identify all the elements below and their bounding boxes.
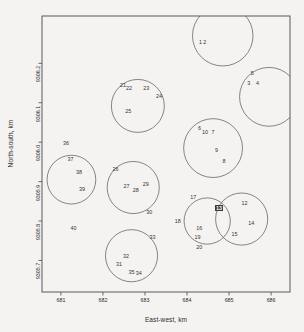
- cluster-36-39: [47, 155, 96, 204]
- scatter-plot-figure: North-south, km East-west, km 6816826836…: [0, 0, 304, 332]
- data-point-label-22: 22: [126, 85, 132, 91]
- data-point-label-23: 23: [143, 85, 149, 91]
- data-point-label-14: 14: [248, 220, 254, 226]
- data-point-label-9: 9: [215, 147, 218, 153]
- data-point-label-35: 35: [129, 269, 135, 275]
- data-point-label-6: 6: [198, 125, 201, 131]
- y-tick-label: 9306.1: [35, 103, 41, 125]
- data-point-label-12: 12: [242, 200, 248, 206]
- cluster-circles-group: [47, 5, 298, 281]
- data-point-label-15: 15: [232, 231, 238, 237]
- y-tick-label: 9306.0: [35, 142, 41, 164]
- y-tick-label: 9305.9: [35, 182, 41, 204]
- data-point-label-39: 39: [79, 186, 85, 192]
- data-point-label-8: 8: [223, 158, 226, 164]
- data-point-label-33: 33: [150, 234, 156, 240]
- data-point-label-34: 34: [136, 270, 142, 276]
- data-point-label-5: 5: [251, 70, 254, 76]
- data-point-label-13: 13: [215, 205, 223, 211]
- axis-ticks-group: [39, 63, 272, 295]
- data-point-label-2: 2: [203, 39, 206, 45]
- x-tick-label: 683: [130, 297, 160, 303]
- data-point-label-16: 16: [196, 225, 202, 231]
- data-point-label-10: 10: [202, 129, 208, 135]
- y-tick-label: 9305.8: [35, 221, 41, 243]
- data-point-label-7: 7: [212, 129, 215, 135]
- data-point-label-29: 29: [143, 181, 149, 187]
- data-point-label-31: 31: [116, 261, 122, 267]
- data-point-label-40: 40: [71, 225, 77, 231]
- y-tick-label: 9305.7: [35, 260, 41, 282]
- plot-frame: [42, 16, 290, 292]
- data-point-label-4: 4: [256, 80, 259, 86]
- data-point-label-38: 38: [76, 169, 82, 175]
- data-point-label-18: 18: [175, 218, 181, 224]
- x-tick-label: 686: [256, 297, 286, 303]
- data-point-label-30: 30: [146, 209, 152, 215]
- plot-canvas: [0, 0, 304, 332]
- y-tick-label: 9306.2: [35, 63, 41, 85]
- data-point-label-1: 1: [199, 39, 202, 45]
- data-point-label-24: 24: [156, 93, 162, 99]
- data-point-label-25: 25: [125, 108, 131, 114]
- data-point-label-26: 26: [113, 166, 119, 172]
- data-point-label-37: 37: [68, 156, 74, 162]
- data-point-label-17: 17: [190, 194, 196, 200]
- cluster-1-2: [192, 5, 253, 66]
- data-point-label-32: 32: [123, 253, 129, 259]
- x-tick-label: 684: [172, 297, 202, 303]
- x-tick-label: 682: [88, 297, 118, 303]
- data-point-label-27: 27: [124, 183, 130, 189]
- data-point-label-19: 19: [195, 234, 201, 240]
- x-tick-label: 685: [214, 297, 244, 303]
- data-point-label-28: 28: [133, 187, 139, 193]
- data-point-label-3: 3: [247, 80, 250, 86]
- data-point-label-36: 36: [63, 140, 69, 146]
- cluster-6-10: [184, 119, 243, 178]
- x-tick-label: 681: [46, 297, 76, 303]
- data-point-label-20: 20: [196, 244, 202, 250]
